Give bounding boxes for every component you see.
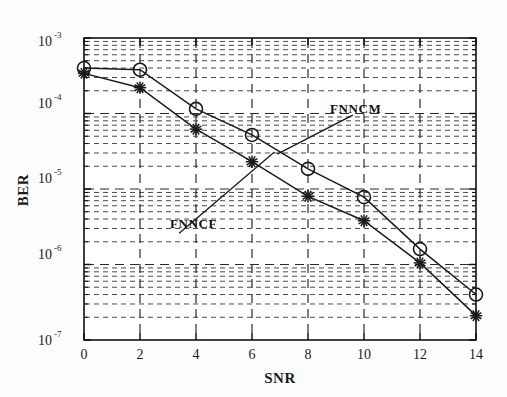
x-axis-title: SNR	[264, 370, 296, 386]
chart-canvas: 10 -3 10 -4 10 -5 10 -6 10 -7 0 2 4 6 8 …	[0, 0, 507, 397]
y-tick-label-1e-5-exp: -5	[54, 167, 62, 177]
x-tick-label-0: 0	[81, 347, 88, 362]
y-tick-label-1e-5-base: 10	[38, 171, 52, 186]
x-tick-label-2: 2	[137, 347, 144, 362]
x-tick-labels: 0 2 4 6 8 10 12 14	[81, 347, 484, 362]
y-tick-label-1e-4-base: 10	[38, 96, 52, 111]
y-tick-label-1e-7-exp: -7	[54, 329, 62, 339]
x-tick-label-10: 10	[357, 347, 371, 362]
x-tick-label-6: 6	[249, 347, 256, 362]
ber-snr-figure: 10 -3 10 -4 10 -5 10 -6 10 -7 0 2 4 6 8 …	[0, 0, 507, 397]
x-tick-label-4: 4	[193, 347, 200, 362]
y-axis-title: BER	[15, 174, 31, 206]
x-tick-label-8: 8	[305, 347, 312, 362]
y-tick-label-1e-7-base: 10	[38, 333, 52, 348]
y-tick-label-1e-6-exp: -6	[54, 243, 62, 253]
y-tick-label-1e-4-exp: -4	[54, 92, 62, 102]
x-tick-label-12: 12	[413, 347, 427, 362]
y-tick-label-1e-3-base: 10	[38, 34, 52, 49]
annotation-fnncf: FNNCF	[170, 216, 217, 231]
annotation-fnncm: FNNCM	[330, 101, 381, 116]
x-tick-label-14: 14	[469, 347, 483, 362]
y-tick-labels: 10 -3 10 -4 10 -5 10 -6 10 -7	[38, 30, 62, 348]
y-tick-label-1e-6-base: 10	[38, 247, 52, 262]
y-tick-label-1e-3-exp: -3	[54, 30, 62, 40]
